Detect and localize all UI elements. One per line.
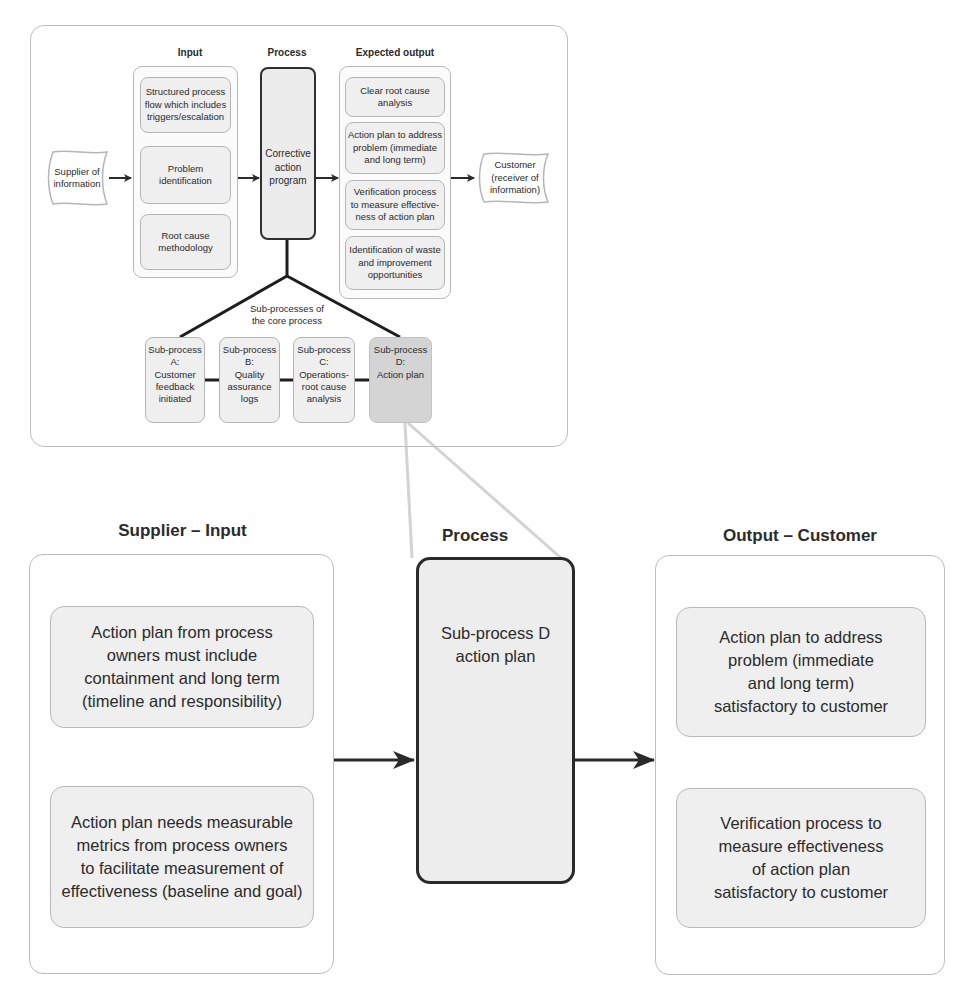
output-customer-item: Action plan to address problem (immediat… [676,607,926,737]
process-title: Process [420,526,570,546]
output-item: Action plan to address problem (immediat… [345,122,445,174]
expected-output-header: Expected output [340,47,450,58]
input-header: Input [150,47,230,58]
output-item: Identification of waste and improvement … [345,236,445,290]
subprocess-c: Sub-process C: Operations- root cause an… [293,337,355,423]
output-customer-item: Verification process to measure effectiv… [676,788,926,928]
subprocess-d: Sub-process D: Action plan [369,337,432,423]
subprocess-a: Sub-process A: Customer feedback initiat… [145,337,205,423]
input-item: Problem identification [140,146,231,204]
supplier-input-title: Supplier – Input [30,521,335,541]
customer-label: Customer (receiver of information) [480,150,550,206]
supplier-input-item: Action plan needs measurable metrics fro… [50,786,314,928]
input-item: Structured process flow which includes t… [140,77,231,133]
output-item: Clear root cause analysis [345,77,445,117]
subprocess-caption: Sub-processes of the core process [237,300,337,330]
subprocess-b: Sub-process B: Quality assurance logs [219,337,280,423]
input-item: Root cause methodology [140,214,231,270]
output-item: Verification process to measure effectiv… [345,180,445,230]
supplier-flag: Supplier of information [45,148,109,208]
core-process-box: Corrective action program [260,67,316,240]
output-customer-title: Output – Customer [655,526,945,546]
customer-flag: Customer (receiver of information) [476,150,552,206]
subprocess-d-process-box: Sub-process D action plan [416,557,575,884]
process-header: Process [247,47,327,58]
supplier-input-item: Action plan from process owners must inc… [50,606,314,728]
supplier-label: Supplier of information [47,148,107,208]
